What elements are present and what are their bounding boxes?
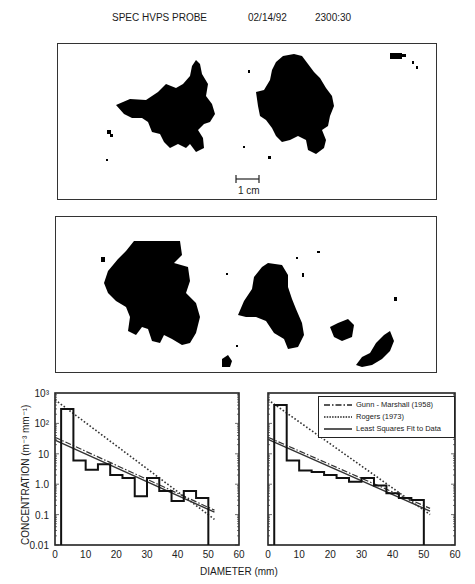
- x-tick-label: 20: [325, 549, 337, 560]
- x-tick-label: 30: [356, 549, 368, 560]
- x-tick-label: 10: [294, 549, 306, 560]
- x-tick-label: 50: [418, 549, 430, 560]
- x-tick-label: 40: [387, 549, 399, 560]
- x-axis-label: DIAMETER (mm): [200, 566, 278, 577]
- x-tick-label: 60: [449, 549, 461, 560]
- legend: Gunn - Marshall (1958) Rogers (1973) Lea…: [318, 396, 455, 438]
- x-tick-label: 0: [265, 549, 271, 560]
- fit-line-least-squares-fit-to-data: [268, 439, 430, 511]
- legend-item-rogers: Rogers (1973): [323, 412, 451, 422]
- legend-item-gunn-marshall: Gunn - Marshall (1958): [323, 400, 451, 410]
- legend-item-least-squares: Least Squares Fit to Data: [323, 424, 451, 434]
- chart-right: 0102030405060: [0, 0, 475, 584]
